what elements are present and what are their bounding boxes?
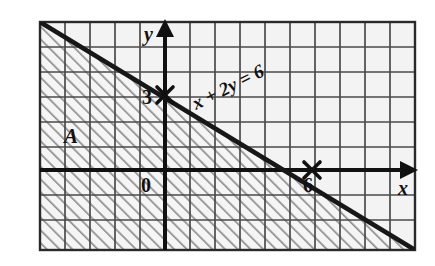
x-intercept-label: 6 — [303, 174, 313, 196]
origin-label: 0 — [141, 174, 151, 196]
region-label-a: A — [62, 124, 78, 148]
y-axis-label: y — [142, 23, 153, 46]
graph-figure: y x 0 3 6 A x + 2y = 6 — [0, 0, 435, 266]
x-axis-label: x — [397, 177, 408, 199]
y-intercept-label: 3 — [142, 86, 152, 108]
graph-svg: y x 0 3 6 A x + 2y = 6 — [0, 0, 435, 266]
